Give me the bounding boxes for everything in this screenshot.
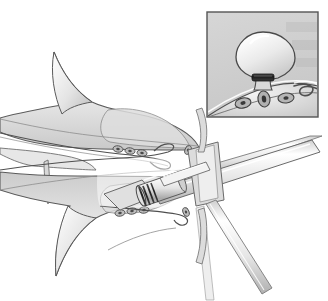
inset-bg-streak xyxy=(296,58,318,67)
ligature-band xyxy=(252,74,274,81)
inset-panel xyxy=(207,12,318,117)
medical-illustration-figure xyxy=(0,0,328,301)
inset-bg-streak xyxy=(286,22,318,32)
inset-content xyxy=(208,13,318,117)
illustration-canvas xyxy=(0,0,328,301)
inset-bg-streak xyxy=(292,40,318,50)
